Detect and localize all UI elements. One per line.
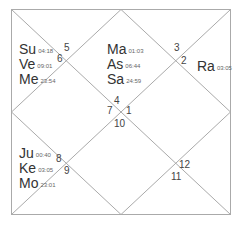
- house-number-3: 3: [174, 43, 180, 53]
- planet-mo: Mo23:01: [19, 175, 55, 191]
- planet-me: Me23:54: [19, 71, 55, 87]
- house-number-1: 1: [126, 106, 132, 116]
- house-number-5: 5: [64, 43, 70, 53]
- house-number-8: 8: [56, 154, 62, 164]
- house-number-12: 12: [179, 160, 190, 170]
- planet-sa: Sa24:59: [107, 71, 141, 87]
- house-number-6: 6: [57, 54, 63, 64]
- house-number-9: 9: [64, 166, 70, 176]
- planet-ve: Ve09:01: [19, 56, 52, 72]
- house-number-11: 11: [171, 172, 181, 182]
- planet-as: As06:44: [107, 56, 140, 72]
- planet-ra: Ra03:05: [197, 58, 232, 74]
- house-number-10: 10: [114, 119, 125, 129]
- planet-ma: Ma01:03: [107, 41, 143, 57]
- house-number-7: 7: [107, 106, 113, 116]
- planet-su: Su04:18: [19, 41, 53, 57]
- planet-ju: Ju00:40: [19, 145, 51, 161]
- planet-ke: Ke03:05: [19, 160, 53, 176]
- house-number-4: 4: [114, 96, 120, 106]
- house-number-2: 2: [181, 56, 187, 66]
